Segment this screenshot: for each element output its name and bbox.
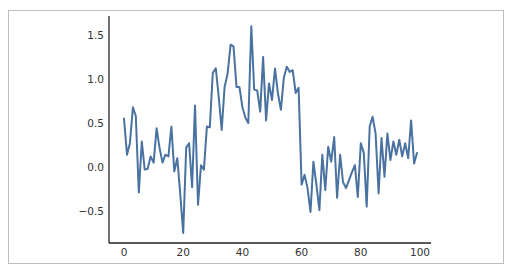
y-tick-label: 0.0 (87, 161, 104, 173)
x-tick-label: 0 (121, 246, 128, 258)
x-tick-label: 100 (410, 246, 430, 258)
line-chart: −0.50.00.51.01.5 020406080100 (0, 0, 509, 271)
x-tick-label: 60 (295, 246, 308, 258)
y-tick-label: −0.5 (79, 205, 105, 217)
data-series-line (124, 26, 417, 233)
x-tick-label: 40 (236, 246, 249, 258)
x-tick-label: 80 (354, 246, 367, 258)
x-tick-label: 20 (177, 246, 190, 258)
y-tick-label: 1.5 (87, 29, 104, 41)
x-axis-tick-labels: 020406080100 (121, 246, 430, 258)
y-tick-label: 0.5 (87, 117, 104, 129)
y-tick-label: 1.0 (87, 73, 104, 85)
y-axis-tick-labels: −0.50.00.51.01.5 (79, 29, 105, 217)
